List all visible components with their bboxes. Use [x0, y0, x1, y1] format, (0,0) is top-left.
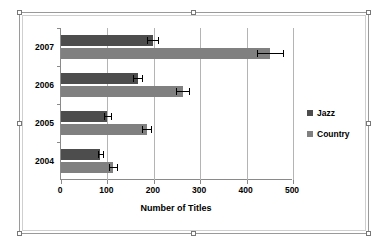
y-category-label: 2005 — [20, 118, 54, 128]
error-bar-cap — [98, 151, 99, 158]
resize-handle-n[interactable] — [191, 10, 196, 15]
error-bar-cap — [117, 164, 118, 171]
resize-handle-s[interactable] — [191, 231, 196, 236]
x-axis-tick — [200, 180, 201, 184]
legend-item-country[interactable]: Country — [307, 129, 350, 139]
error-bar-cap — [142, 126, 143, 133]
error-bar-cap — [133, 75, 134, 82]
x-tick-label: 0 — [40, 185, 80, 195]
error-bar — [257, 53, 283, 54]
y-category-label: 2006 — [20, 80, 54, 90]
legend-label: Country — [317, 129, 350, 139]
y-category-label: 2007 — [20, 42, 54, 52]
error-bar — [142, 129, 151, 130]
error-bar-cap — [111, 113, 112, 120]
error-bar-cap — [147, 37, 148, 44]
y-axis-tick — [57, 104, 61, 105]
bar-country-2005[interactable] — [61, 124, 147, 135]
error-bar-cap — [142, 75, 143, 82]
x-tick-label: 500 — [272, 185, 312, 195]
error-bar — [176, 91, 189, 92]
x-axis-tick — [154, 180, 155, 184]
bar-jazz-2007[interactable] — [61, 35, 153, 46]
x-axis-title: Number of Titles — [60, 203, 292, 213]
x-tick-label: 200 — [133, 185, 173, 195]
error-bar-cap — [151, 126, 152, 133]
chart-screen: 0100200300400500 2007200620052004 Number… — [0, 0, 388, 251]
bar-country-2004[interactable] — [61, 162, 113, 173]
error-bar-cap — [109, 164, 110, 171]
error-bar-cap — [176, 88, 177, 95]
x-tick-label: 400 — [226, 185, 266, 195]
error-bar-cap — [257, 50, 258, 57]
chart-legend: JazzCountry — [307, 108, 350, 150]
error-bar-cap — [189, 88, 190, 95]
error-bar-cap — [104, 113, 105, 120]
resize-handle-ne[interactable] — [366, 10, 371, 15]
error-bar-cap — [158, 37, 159, 44]
legend-label: Jazz — [317, 108, 335, 118]
y-category-label: 2004 — [20, 156, 54, 166]
error-bar — [147, 40, 158, 41]
gridline — [293, 28, 294, 180]
bar-country-2007[interactable] — [61, 48, 270, 59]
resize-handle-se[interactable] — [366, 231, 371, 236]
x-axis-tick — [293, 180, 294, 184]
x-axis-tick — [61, 180, 62, 184]
y-axis-tick — [57, 142, 61, 143]
bar-jazz-2005[interactable] — [61, 111, 107, 122]
x-axis-tick — [107, 180, 108, 184]
bar-country-2006[interactable] — [61, 86, 183, 97]
x-tick-label: 300 — [179, 185, 219, 195]
legend-item-jazz[interactable]: Jazz — [307, 108, 350, 118]
x-axis-tick — [247, 180, 248, 184]
x-tick-label: 100 — [86, 185, 126, 195]
legend-swatch-icon — [307, 110, 313, 116]
error-bar — [133, 78, 141, 79]
bar-jazz-2004[interactable] — [61, 149, 100, 160]
y-axis-tick — [57, 28, 61, 29]
resize-handle-nw[interactable] — [17, 10, 22, 15]
error-bar — [109, 167, 116, 168]
resize-handle-sw[interactable] — [17, 231, 22, 236]
y-axis-tick — [57, 66, 61, 67]
resize-handle-e[interactable] — [366, 121, 371, 126]
plot-area — [60, 28, 292, 180]
error-bar-cap — [103, 151, 104, 158]
error-bar-cap — [283, 50, 284, 57]
legend-swatch-icon — [307, 131, 313, 137]
bar-jazz-2006[interactable] — [61, 73, 138, 84]
